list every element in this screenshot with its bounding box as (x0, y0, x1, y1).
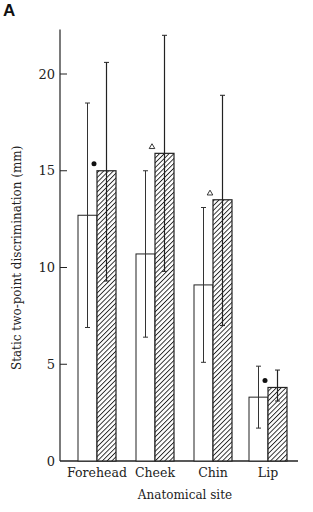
bar-group-lip (249, 366, 287, 461)
y-tick-label: 5 (47, 357, 55, 372)
y-axis-title: Static two-point discrimination (mm) (10, 146, 24, 371)
category-label-cheek: Cheek (135, 465, 175, 480)
category-label-lip: Lip (258, 465, 278, 480)
significance-dot-icon (263, 378, 268, 383)
category-label-chin: Chin (198, 465, 228, 480)
y-tick-label: 10 (38, 260, 55, 275)
y-tick-label: 20 (38, 67, 55, 82)
y-tick-label: 0 (47, 454, 55, 469)
bar-group-forehead (78, 62, 116, 461)
significance-triangle-icon (207, 190, 213, 195)
bar-group-cheek (136, 35, 174, 461)
bar-chart: 05101520 Static two-point discrimination… (0, 0, 313, 512)
significance-dot-icon (92, 161, 97, 166)
bar-group-chin (194, 95, 232, 461)
x-axis-title: Anatomical site (137, 488, 232, 502)
significance-triangle-icon (149, 144, 155, 149)
bars (78, 35, 287, 461)
category-label-forehead: Forehead (67, 465, 127, 480)
y-tick-label: 15 (38, 163, 55, 178)
